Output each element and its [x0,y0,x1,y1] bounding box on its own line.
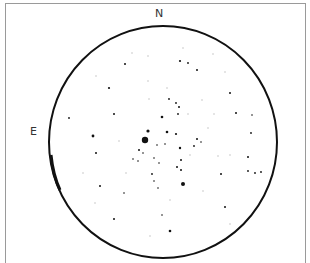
faint-star [224,71,225,72]
star [247,170,249,172]
star [138,149,140,151]
star [220,173,222,175]
star [177,113,179,115]
star [99,185,101,187]
faint-star [148,98,149,99]
star [142,137,148,143]
star [153,157,155,159]
star [164,143,166,145]
faint-star [207,127,208,128]
star [235,112,237,114]
faint-star [147,55,148,56]
star [175,102,177,104]
faint-star [189,154,190,155]
faint-star [131,52,132,53]
star [142,152,144,154]
star [196,138,198,140]
faint-star [147,80,148,81]
star [193,145,195,147]
star [113,218,115,220]
star [123,192,125,194]
faint-star [229,223,230,224]
star [153,180,155,182]
field-of-view-circle [49,26,277,258]
faint-star [118,140,119,141]
faint-star [149,235,150,236]
star [137,160,139,162]
star [175,133,177,135]
faint-star [201,99,202,100]
star [176,166,178,168]
faint-star [82,172,83,173]
star [187,62,189,64]
star [95,152,97,154]
star [254,172,256,174]
faint-star [95,75,96,76]
star [132,158,134,160]
faint-star [187,113,188,114]
star [113,113,115,115]
star [157,187,159,189]
star [180,169,182,171]
star [229,92,231,94]
faint-star [166,87,167,88]
star [178,106,180,108]
star [196,69,198,71]
star [251,114,253,116]
faint-stars-group [82,47,230,236]
faint-star [125,172,126,173]
faint-star [182,47,183,48]
faint-star [229,154,230,155]
star [68,117,70,119]
faint-star [213,113,214,114]
star [179,60,181,62]
star [247,156,249,158]
star [179,147,181,149]
star [200,141,202,143]
star [156,144,158,146]
star [161,116,164,119]
star [161,214,163,216]
star [108,87,110,89]
faint-star [212,53,213,54]
faint-star [202,190,203,191]
star [169,230,172,233]
star [158,162,160,164]
star [250,132,252,134]
star [146,129,149,132]
faint-star [169,199,170,200]
star [166,131,169,134]
stars-group [68,60,262,232]
star [168,98,170,100]
faint-star [217,155,218,156]
star [181,182,185,186]
star [92,135,95,138]
faint-star [94,202,95,203]
star [180,159,182,161]
star [124,63,126,65]
star [260,171,262,173]
star [224,206,226,208]
star [151,173,153,175]
